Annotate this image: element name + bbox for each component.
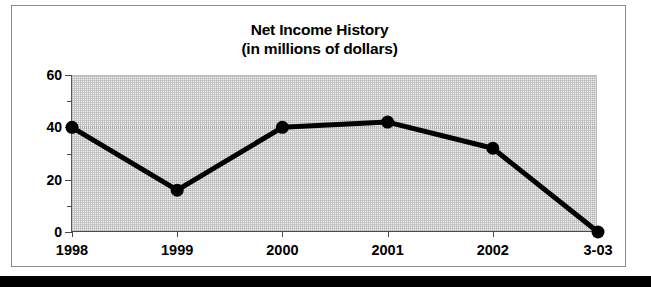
data-point-2001 [381,116,394,129]
data-point-2000 [276,121,289,134]
series-line [72,122,598,232]
data-point-1998 [66,121,79,134]
x-axis-label-2001: 2001 [371,242,403,258]
y-axis-label-20: 20 [46,172,62,188]
plot-area: 60 40 20 0 1998 1999 2000 2001 2002 3-03 [71,75,597,232]
y-tick-60 [65,75,72,76]
page-title: Net Income History [12,20,627,39]
data-point-1999 [171,184,184,197]
net-income-line-series [72,75,598,232]
x-axis-label-3-03: 3-03 [583,242,612,258]
y-axis-label-0: 0 [54,224,62,240]
x-axis-label-2002: 2002 [477,242,509,258]
y-tick-20 [65,180,72,181]
chart-subtitle: (in millions of dollars) [12,39,627,58]
chart-title-block: Net Income History (in millions of dolla… [12,20,627,58]
data-point-3-03 [592,226,605,239]
y-axis-label-60: 60 [46,67,62,83]
x-axis-label-2000: 2000 [266,242,298,258]
series-markers [66,116,605,239]
y-axis-label-40: 40 [46,119,62,135]
chart-page: Net Income History (in millions of dolla… [0,0,651,287]
y-tick-0 [65,232,72,233]
x-axis-label-1999: 1999 [161,242,193,258]
data-point-2002 [486,142,499,155]
page-bottom-bar [0,276,651,287]
x-axis-label-1998: 1998 [56,242,88,258]
